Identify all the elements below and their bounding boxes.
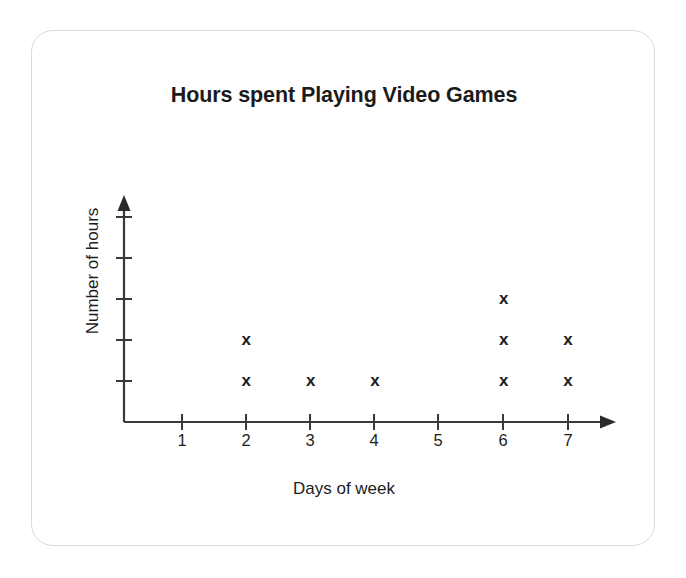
axes-group <box>116 195 616 430</box>
x-tick-label: 3 <box>295 431 325 450</box>
data-point-x-mark: x <box>493 329 515 351</box>
x-tick-label: 1 <box>167 431 197 450</box>
x-tick-label: 4 <box>359 431 389 450</box>
y-axis-arrowhead <box>118 195 131 211</box>
chart-card: Hours spent Playing Video Games <box>31 30 655 546</box>
axes-svg <box>32 31 656 547</box>
data-point-x-mark: x <box>557 370 579 392</box>
screenshot-root: Hours spent Playing Video Games <box>0 0 686 578</box>
plot-area: 1 2 3 4 5 6 7 xxxxxxxxx Number of hours … <box>32 31 656 547</box>
y-axis-title: Number of hours <box>83 181 103 361</box>
data-point-x-mark: x <box>235 329 257 351</box>
x-axis-arrowhead <box>600 416 616 429</box>
x-tick-label: 6 <box>488 431 518 450</box>
data-point-x-mark: x <box>557 329 579 351</box>
data-point-x-mark: x <box>493 288 515 310</box>
data-point-x-mark: x <box>493 370 515 392</box>
data-point-x-mark: x <box>300 370 322 392</box>
data-point-x-mark: x <box>235 370 257 392</box>
x-tick-label: 2 <box>231 431 261 450</box>
x-tick-label: 7 <box>553 431 583 450</box>
x-tick-label: 5 <box>423 431 453 450</box>
data-point-x-mark: x <box>364 370 386 392</box>
x-axis-title: Days of week <box>32 479 656 499</box>
